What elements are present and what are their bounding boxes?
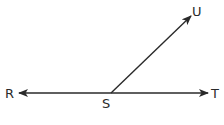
angle-diagram: R S T U — [0, 0, 224, 125]
label-s: S — [102, 96, 110, 111]
label-u: U — [192, 4, 202, 19]
label-t: T — [210, 86, 219, 101]
label-r: R — [5, 86, 14, 101]
ray-su — [111, 16, 191, 93]
